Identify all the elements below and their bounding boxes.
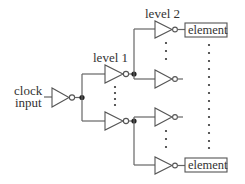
level2-bottom-ellipsis-icon xyxy=(165,130,167,148)
level2-buffer-1 xyxy=(155,21,177,38)
inverter-bubble-icon xyxy=(173,77,178,82)
buffer-triangle-icon xyxy=(155,108,172,126)
buffer-triangle-icon xyxy=(155,157,172,174)
level2-buffer-4 xyxy=(155,157,177,174)
level2-label: level 2 xyxy=(145,6,180,21)
inverter-bubble-icon xyxy=(173,27,178,32)
level1-top-buffer xyxy=(105,65,129,83)
buffer-triangle-icon xyxy=(105,112,123,130)
element-bottom: element xyxy=(185,158,228,172)
level1-label: level 1 xyxy=(93,50,128,65)
buffer-triangle-icon xyxy=(155,70,172,88)
buffer-triangle-icon xyxy=(155,21,172,38)
level2-buffer-2 xyxy=(155,70,177,88)
inverter-bubble-icon xyxy=(123,71,128,76)
buffer-triangle-icon xyxy=(52,88,69,107)
clock-input-label-line2: input xyxy=(15,95,42,110)
clock-tree-diagram: clock input level 1 level 2 xyxy=(0,0,245,184)
element-ellipsis-icon xyxy=(208,44,210,149)
root-buffer xyxy=(52,88,75,107)
level1-bottom-buffer xyxy=(105,112,129,130)
level2-buffer-3 xyxy=(155,108,177,126)
element-bottom-label: element xyxy=(188,158,228,172)
element-top-label: element xyxy=(188,23,228,37)
inverter-bubble-icon xyxy=(69,95,74,100)
level1-ellipsis-icon xyxy=(114,86,116,106)
element-top: element xyxy=(185,23,228,37)
inverter-bubble-icon xyxy=(123,118,128,123)
inverter-bubble-icon xyxy=(173,115,178,120)
buffer-triangle-icon xyxy=(105,65,123,83)
level2-top-ellipsis-icon xyxy=(165,42,167,60)
inverter-bubble-icon xyxy=(173,163,178,168)
